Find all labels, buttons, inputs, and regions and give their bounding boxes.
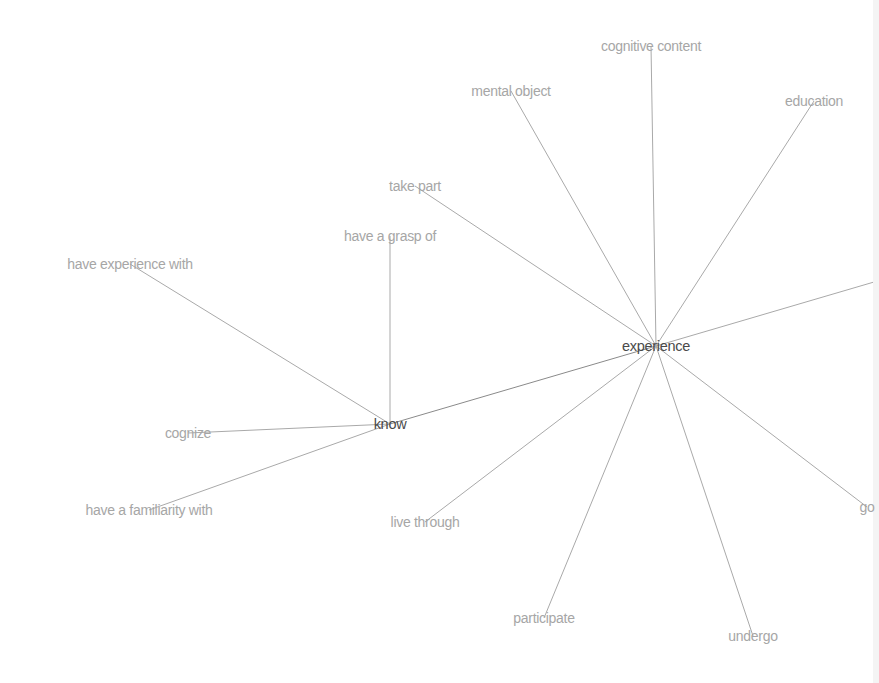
node-have-a-familiarity-with[interactable]: have a familiarity with [86, 502, 213, 518]
edge-know-cognize [188, 424, 390, 433]
edge-experience-undergo [656, 346, 753, 636]
node-live-through[interactable]: live through [391, 514, 460, 530]
node-take-part[interactable]: take part [389, 178, 441, 194]
node-cognize[interactable]: cognize [165, 425, 211, 441]
edge-experience-offscreen-right [656, 282, 874, 346]
node-education[interactable]: education [785, 93, 843, 109]
edge-know-have-experience-with [130, 264, 390, 424]
edge-know-experience [390, 346, 656, 424]
edge-experience-participate [544, 346, 656, 618]
edge-experience-mental-object [511, 91, 656, 346]
graph-edges [130, 46, 874, 636]
node-participate[interactable]: participate [513, 610, 574, 626]
node-have-a-grasp-of[interactable]: have a grasp of [344, 228, 436, 244]
edge-experience-education [656, 101, 814, 346]
node-experience[interactable]: experience [622, 338, 690, 354]
edge-experience-cognitive-content [651, 46, 656, 346]
node-cognitive-content[interactable]: cognitive content [601, 38, 701, 54]
node-have-experience-with[interactable]: have experience with [67, 256, 193, 272]
edge-experience-live-through [425, 346, 656, 522]
edge-experience-go [656, 346, 867, 507]
node-mental-object[interactable]: mental object [471, 83, 550, 99]
node-go[interactable]: go [860, 499, 875, 515]
graph-canvas[interactable] [0, 0, 879, 683]
node-know[interactable]: know [374, 416, 407, 432]
node-undergo[interactable]: undergo [728, 628, 777, 644]
panel-right-edge [873, 0, 879, 683]
edge-experience-take-part [415, 186, 656, 346]
